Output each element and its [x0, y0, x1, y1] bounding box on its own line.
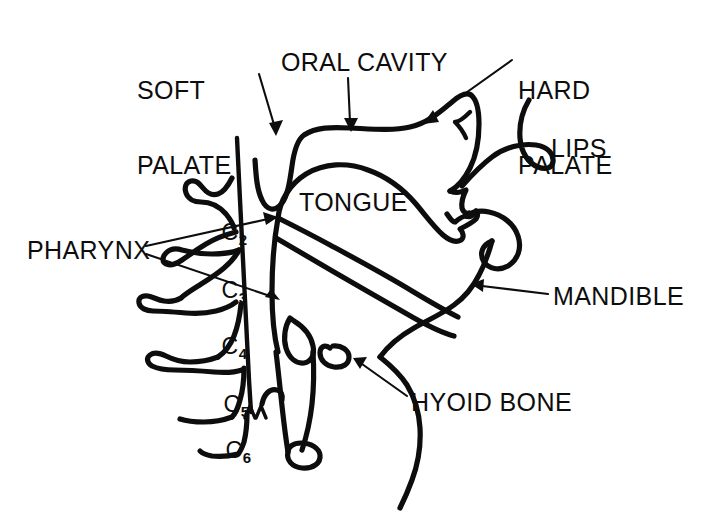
label-oral-cavity: ORAL CAVITY: [281, 50, 448, 75]
mandible: [380, 241, 492, 357]
hyoid-bone: [320, 346, 349, 367]
upper-teeth: [450, 190, 469, 213]
label-mandible: MANDIBLE: [553, 284, 684, 309]
tongue-root-upper: [278, 218, 458, 317]
label-soft-palate-line1: SOFT: [137, 78, 232, 103]
label-hard-palate: HARD PALATE: [518, 28, 613, 228]
tongue-posterior-edge: [272, 218, 278, 352]
label-c6-number: 6: [243, 449, 251, 466]
vocal-tract-diagram: SOFT PALATE ORAL CAVITY HARD PALATE LIPS…: [0, 0, 704, 512]
label-tongue: TONGUE: [299, 190, 408, 215]
label-c4-letter: C: [222, 333, 239, 359]
label-c3-number: 3: [239, 289, 247, 306]
submandibular-contour: [380, 357, 420, 508]
epiglottis: [285, 318, 314, 363]
nasal-spine-notch: [455, 112, 470, 138]
label-hard-palate-line1: HARD: [518, 78, 613, 103]
lower-teeth: [447, 214, 466, 222]
label-lips: LIPS: [551, 136, 607, 161]
label-vertebra-c6: C6: [200, 410, 251, 491]
arrowhead-soft-palate: [269, 120, 283, 136]
label-soft-palate-line2: PALATE: [137, 153, 232, 178]
leader-soft-palate: [259, 74, 275, 128]
leader-mandible: [482, 286, 548, 294]
label-c2-letter: C: [222, 219, 239, 245]
leader-oral-cavity: [348, 78, 350, 122]
label-c6-letter: C: [226, 437, 243, 463]
label-c3-letter: C: [222, 277, 239, 303]
trachea-anterior-wall: [302, 352, 314, 450]
label-c2-number: 2: [239, 231, 247, 248]
hard-palate: [450, 95, 479, 191]
label-c4-number: 4: [239, 345, 247, 362]
label-pharynx: PHARYNX: [27, 238, 150, 263]
label-hyoid-bone: HYOID BONE: [411, 390, 572, 415]
